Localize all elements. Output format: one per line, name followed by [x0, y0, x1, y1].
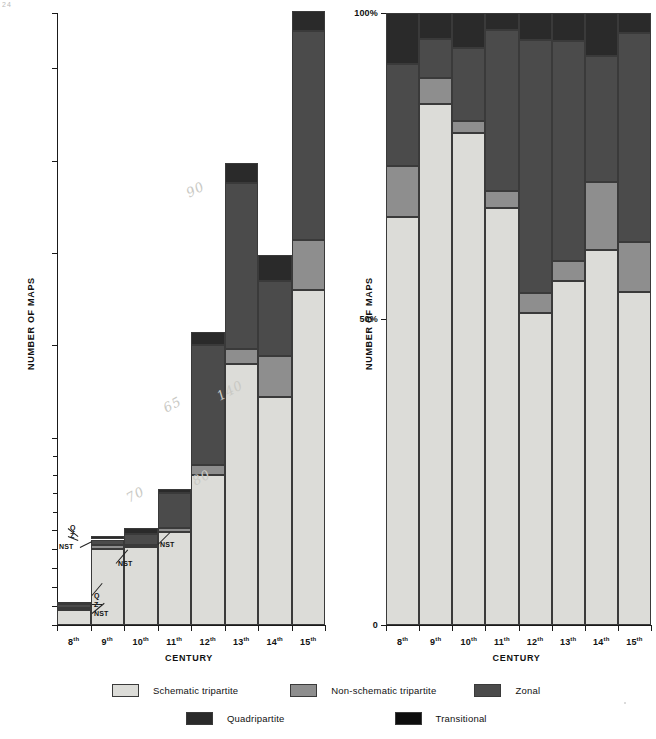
bar-segment-schematic-tripartite[interactable] [191, 475, 225, 625]
bar-segment-zonal[interactable] [419, 39, 452, 78]
bar-segment-non-schematic-tripartite[interactable] [519, 293, 552, 313]
bar-segment-schematic-tripartite[interactable] [57, 610, 91, 625]
bar-segment-non-schematic-tripartite[interactable] [124, 545, 158, 547]
bar-segment-non-schematic-tripartite[interactable] [552, 261, 585, 281]
bar-segment-non-schematic-tripartite[interactable] [386, 166, 419, 217]
bar-segment-zonal[interactable] [292, 31, 326, 240]
bar-segment-non-schematic-tripartite[interactable] [485, 191, 518, 208]
legend-label-quadripartite: Quadripartite [227, 713, 285, 724]
bar-15th-century[interactable] [292, 13, 326, 625]
bar-segment-non-schematic-tripartite[interactable] [258, 356, 292, 397]
bar-segment-schematic-tripartite[interactable] [519, 313, 552, 625]
legend-item-non-schematic-tripartite[interactable]: Non-schematic tripartite [290, 684, 436, 697]
bar-segment-quadripartite[interactable] [552, 13, 585, 41]
bar-segment-quadripartite[interactable] [158, 489, 192, 493]
bar-segment-non-schematic-tripartite[interactable] [91, 545, 125, 549]
bar-segment-non-schematic-tripartite[interactable] [158, 528, 192, 532]
axis-tick [618, 626, 619, 631]
legend-label-non-schematic-tripartite: Non-schematic tripartite [331, 685, 436, 696]
bar-segment-quadripartite[interactable] [292, 11, 326, 31]
bar-segment-schematic-tripartite[interactable] [225, 364, 259, 625]
scan-speck [624, 702, 626, 704]
bar-segment-zonal[interactable] [91, 540, 125, 546]
bar-segment-schematic-tripartite[interactable] [618, 292, 651, 625]
bar-segment-quadripartite[interactable] [585, 13, 618, 56]
legend-item-quadripartite[interactable]: Quadripartite [186, 712, 285, 725]
legend-item-schematic-tripartite[interactable]: Schematic tripartite [112, 684, 238, 697]
bar-segment-schematic-tripartite[interactable] [258, 397, 292, 625]
bar-segment-quadripartite[interactable] [57, 602, 91, 604]
bar-segment-quadripartite[interactable] [618, 13, 651, 33]
bar-segment-zonal[interactable] [191, 345, 225, 465]
bar-segment-zonal[interactable] [485, 30, 518, 192]
bar-segment-quadripartite[interactable] [519, 13, 552, 40]
bar-segment-non-schematic-tripartite[interactable] [292, 240, 326, 290]
bar-segment-schematic-tripartite[interactable] [386, 217, 419, 625]
bar-segment-zonal[interactable] [158, 493, 192, 528]
axis-tick [519, 626, 520, 631]
bar-9th-century[interactable] [91, 13, 125, 625]
bar-segment-non-schematic-tripartite[interactable] [419, 78, 452, 104]
axis-tick [386, 626, 387, 631]
callout-8th-q: Q [94, 592, 100, 599]
bar-segment-quadripartite[interactable] [91, 536, 125, 540]
bar-segment-zonal[interactable] [258, 281, 292, 357]
bar-13th-century[interactable] [552, 13, 585, 625]
bar-segment-non-schematic-tripartite[interactable] [57, 608, 91, 610]
bar-segment-schematic-tripartite[interactable] [552, 281, 585, 625]
bar-segment-quadripartite[interactable] [258, 255, 292, 281]
bar-segment-zonal[interactable] [124, 534, 158, 545]
axis-tick [419, 626, 420, 631]
bar-segment-schematic-tripartite[interactable] [124, 547, 158, 625]
bar-14th-century[interactable] [585, 13, 618, 625]
bar-segment-schematic-tripartite[interactable] [292, 290, 326, 625]
bar-segment-non-schematic-tripartite[interactable] [618, 242, 651, 292]
bar-15th-century[interactable] [618, 13, 651, 625]
legend-item-transitional[interactable]: Transitional [395, 712, 487, 725]
bar-10th-century[interactable] [452, 13, 485, 625]
chart-panel-counts: 01020304050100150200250300330NUMBER OF M… [0, 0, 340, 670]
bar-segment-non-schematic-tripartite[interactable] [585, 182, 618, 250]
bar-segment-schematic-tripartite[interactable] [419, 104, 452, 625]
bar-12th-century[interactable] [191, 13, 225, 625]
bar-13th-century[interactable] [225, 13, 259, 625]
bar-segment-non-schematic-tripartite[interactable] [452, 121, 485, 133]
bar-segment-zonal[interactable] [386, 64, 419, 166]
bar-segment-zonal[interactable] [618, 33, 651, 242]
bar-segment-quadripartite[interactable] [225, 163, 259, 183]
bar-segment-schematic-tripartite[interactable] [585, 250, 618, 625]
bar-10th-century[interactable] [124, 13, 158, 625]
bar-11th-century[interactable] [158, 13, 192, 625]
bar-segment-zonal[interactable] [519, 40, 552, 293]
bar-segment-quadripartite[interactable] [191, 332, 225, 345]
bar-11th-century[interactable] [485, 13, 518, 625]
legend-item-zonal[interactable]: Zonal [474, 684, 540, 697]
axis-tick [585, 626, 586, 631]
legend-swatch-quadripartite [186, 712, 213, 725]
bar-segment-non-schematic-tripartite[interactable] [225, 349, 259, 364]
bar-8th-century[interactable] [386, 13, 419, 625]
bar-segment-zonal[interactable] [552, 41, 585, 262]
axis-tick-label: 8th [68, 636, 79, 647]
x-axis-title: CENTURY [165, 653, 213, 663]
bar-segment-quadripartite[interactable] [386, 13, 419, 64]
bar-segment-quadripartite[interactable] [419, 13, 452, 39]
bar-segment-zonal[interactable] [452, 48, 485, 120]
bar-14th-century[interactable] [258, 13, 292, 625]
bar-segment-zonal[interactable] [57, 604, 91, 608]
bar-segment-zonal[interactable] [225, 183, 259, 349]
legend-row-2: Quadripartite Transitional [186, 712, 487, 725]
bar-segment-quadripartite[interactable] [485, 13, 518, 30]
y-axis-title: NUMBER OF MAPS [26, 277, 36, 370]
bar-segment-zonal[interactable] [585, 56, 618, 182]
bar-segment-quadripartite[interactable] [452, 13, 485, 48]
axis-tick [225, 626, 226, 631]
bar-12th-century[interactable] [519, 13, 552, 625]
bar-segment-schematic-tripartite[interactable] [452, 133, 485, 625]
legend-label-zonal: Zonal [515, 685, 540, 696]
axis-tick-label: 14th [593, 636, 610, 647]
bar-9th-century[interactable] [419, 13, 452, 625]
axis-tick [91, 626, 92, 631]
bar-segment-schematic-tripartite[interactable] [485, 208, 518, 625]
bar-segment-quadripartite[interactable] [124, 528, 158, 534]
